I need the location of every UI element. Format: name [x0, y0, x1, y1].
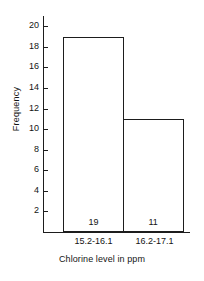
- y-tick-label: 14: [29, 82, 39, 93]
- bar: 19: [63, 37, 124, 232]
- x-category-label: 16.2-17.1: [118, 236, 191, 246]
- y-tick-label: 4: [34, 185, 39, 196]
- bar-value-label: 19: [64, 217, 123, 227]
- y-tick-label: 2: [34, 205, 39, 216]
- bars-layer: 1911: [43, 16, 190, 232]
- x-axis-title: Chlorine level in ppm: [0, 254, 204, 264]
- y-tick-label: 12: [29, 103, 39, 114]
- y-axis-title: Frequency: [11, 61, 21, 157]
- bar: 11: [123, 119, 184, 232]
- y-tick-label: 16: [29, 61, 39, 72]
- bar-value-label: 11: [124, 217, 183, 227]
- y-tick-label: 20: [29, 20, 39, 31]
- y-tick-label: 10: [29, 123, 39, 134]
- y-tick-label: 6: [34, 164, 39, 175]
- y-tick-label: 8: [34, 144, 39, 155]
- histogram-chart: Frequency 2018161412108642 1911 15.2-16.…: [0, 0, 204, 281]
- x-axis-line: [43, 232, 190, 233]
- y-tick-label: 18: [29, 41, 39, 52]
